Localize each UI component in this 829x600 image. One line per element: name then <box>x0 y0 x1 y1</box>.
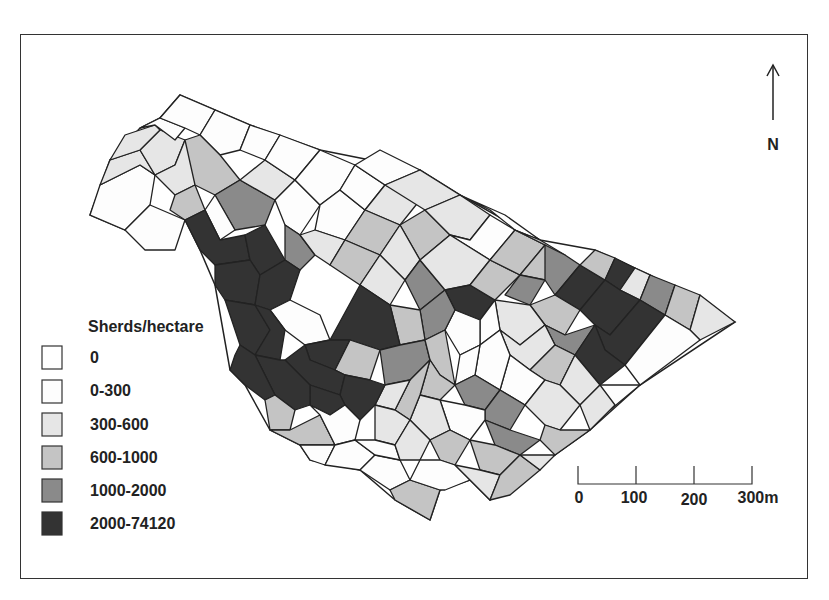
legend-swatch <box>42 413 62 436</box>
legend-swatch <box>42 380 62 403</box>
choropleth-map: N 0 100 200 300m Sherds/hectare 0 0-300 … <box>0 0 829 600</box>
legend-item: 0 <box>42 346 99 369</box>
legend-label: 600-1000 <box>90 449 158 466</box>
legend-title: Sherds/hectare <box>88 318 204 335</box>
north-arrow: N <box>767 65 779 153</box>
scale-tick-300: 300m <box>738 489 779 506</box>
legend-swatch <box>42 512 62 535</box>
legend-swatch <box>42 479 62 502</box>
scale-tick-100: 100 <box>621 489 648 506</box>
legend-item: 1000-2000 <box>42 479 167 502</box>
legend-swatch <box>42 446 62 469</box>
scale-bar: 0 100 200 300m <box>575 466 779 508</box>
legend-item: 600-1000 <box>42 446 158 469</box>
legend-swatch <box>42 346 62 369</box>
legend-item: 0-300 <box>42 380 131 403</box>
legend-label: 2000-74120 <box>90 515 176 532</box>
scale-tick-0: 0 <box>575 489 584 506</box>
legend-label: 1000-2000 <box>90 482 167 499</box>
legend-label: 0-300 <box>90 382 131 399</box>
legend-item: 300-600 <box>42 413 149 436</box>
legend-label: 0 <box>90 349 99 366</box>
legend: Sherds/hectare 0 0-300 300-600 600-1000 … <box>42 318 204 535</box>
north-label: N <box>767 136 779 153</box>
legend-item: 2000-74120 <box>42 512 176 535</box>
legend-label: 300-600 <box>90 416 149 433</box>
scale-tick-200: 200 <box>681 491 708 508</box>
